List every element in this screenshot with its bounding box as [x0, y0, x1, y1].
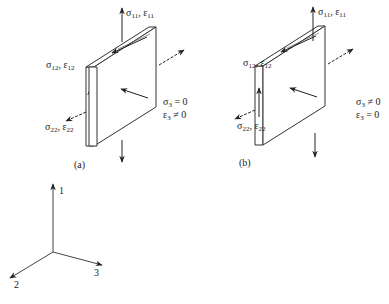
label-sigma3-condition: σ3 = 0 [163, 96, 188, 109]
label-sigma22-eps22: σ22, ε22 [45, 121, 74, 134]
axis-3-arrow [53, 252, 102, 265]
caption-b: (b) [239, 157, 251, 169]
label-sigma11-eps11: σ11, ε11 [126, 7, 155, 20]
coordinate-axes: 1 2 3 [10, 184, 102, 290]
diagram-canvas: σ11, ε11 σ12, ε12 σ22, ε22 σ3 = 0 ε3 ≠ 0… [0, 0, 389, 304]
normal-2-left-arrow [66, 112, 86, 121]
axis-3-label: 3 [94, 267, 99, 278]
axis-2-arrow [10, 252, 53, 278]
normal-2-right-arrow [328, 49, 353, 64]
caption-a: (a) [74, 159, 85, 171]
label-sigma12-eps12: σ12, ε12 [46, 59, 75, 72]
normal-2-left-arrow [235, 110, 255, 119]
normal-2-right-arrow [159, 50, 184, 65]
axis-1-label: 1 [59, 185, 64, 196]
label-sigma11-eps11: σ11, ε11 [318, 6, 347, 19]
label-sigma3-condition: σ3 ≠ 0 [356, 96, 380, 109]
axis-2-label: 2 [14, 279, 19, 290]
label-eps3-condition: ε3 ≠ 0 [163, 109, 186, 122]
label-eps3-condition: ε3 = 0 [356, 109, 379, 122]
panel-a: σ11, ε11 σ12, ε12 σ22, ε22 σ3 = 0 ε3 ≠ 0… [45, 7, 188, 171]
